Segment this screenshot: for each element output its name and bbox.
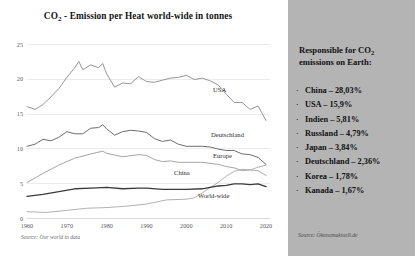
series-line-usa [27,61,266,120]
emissions-ranking-list: ·China – 28,03%·USA – 15,9%·Indien – 5,8… [296,84,414,198]
ranking-item-label: Korea – 1,78% [305,170,358,183]
plot-area: 0510152025 1960197019801990200020102020 … [0,0,288,256]
ranking-item-label: USA – 15,9% [305,98,352,111]
ranking-item: ·Indien – 5,81% [296,113,414,127]
bullet-icon: · [296,156,305,169]
info-source-note: Source: Ökonomaktuell.de [298,232,357,238]
bullet-icon: · [296,85,305,98]
chart-panel: CO2 - Emission per Heat world-wide in to… [0,0,288,256]
ranking-item-label: China – 28,03% [305,84,362,97]
series-line-china [27,165,266,212]
bullet-icon: · [296,185,305,198]
bullet-icon: · [296,114,305,127]
info-heading-line2: emissions on Earth: [299,57,372,67]
series-label-usa: USA [213,86,226,93]
ranking-item: ·Kanada – 1,67% [296,184,414,198]
series-label-world-wide: World-wide [198,192,229,199]
ranking-item: ·China – 28,03% [296,84,414,98]
info-heading-subscript: 2 [371,49,374,56]
bullet-icon: · [296,171,305,184]
bullet-icon: · [296,99,305,112]
ranking-item: ·Korea – 1,78% [296,170,414,184]
bullet-icon: · [296,128,305,141]
info-panel-heading: Responsible for CO2 emissions on Earth: [299,45,409,68]
series-line-world-wide [27,184,266,197]
info-heading-line1: Responsible for CO [299,45,371,55]
ranking-item-label: Russland – 4,79% [305,127,369,140]
series-lines [0,0,288,256]
ranking-item-label: Kanada – 1,67% [305,184,364,197]
info-panel: Responsible for CO2 emissions on Earth: … [288,0,415,256]
slide-root: CO2 - Emission per Heat world-wide in to… [0,0,415,256]
ranking-item: ·USA – 15,9% [296,98,414,112]
series-label-europe: Europe [213,152,232,159]
ranking-item: ·Japan – 3,84% [296,141,414,155]
series-label-deutschland: Deutschland [211,131,244,138]
ranking-item: ·Russland – 4,79% [296,127,414,141]
chart-source-note: Source: Our world in data [21,234,80,240]
ranking-item-label: Japan – 3,84% [305,141,358,154]
ranking-item-label: Indien – 5,81% [305,113,359,126]
ranking-item-label: Deutschland – 2,36% [305,155,380,168]
bullet-icon: · [296,142,305,155]
series-label-china: China [174,169,190,176]
ranking-item: ·Deutschland – 2,36% [296,155,414,169]
